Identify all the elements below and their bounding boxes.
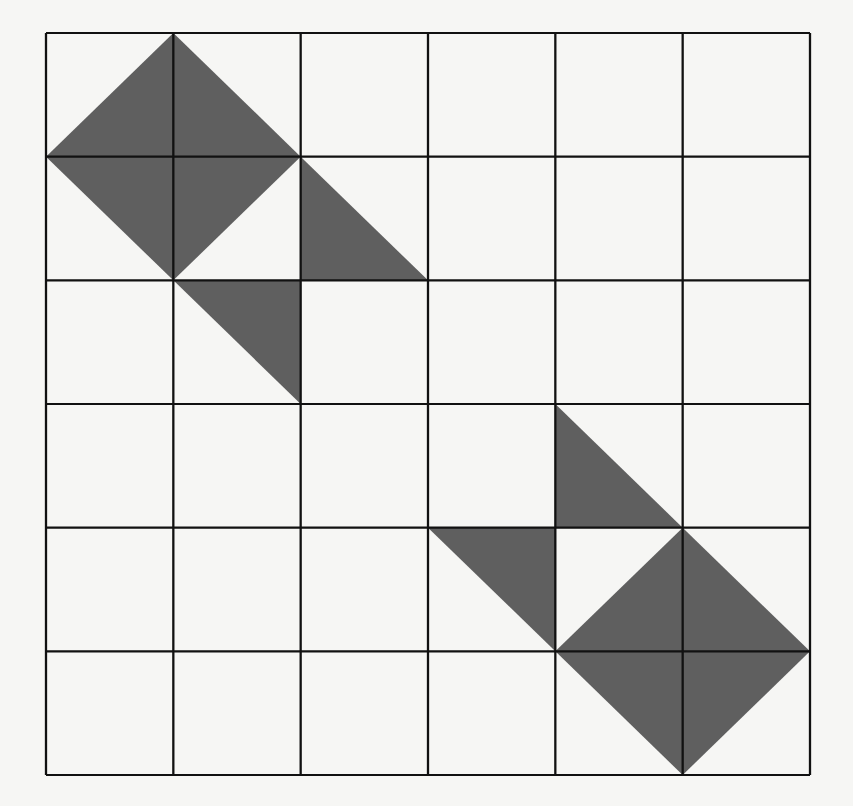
shaded-triangle — [428, 528, 555, 652]
grid-diagram — [46, 33, 810, 775]
shaded-triangle — [46, 33, 173, 157]
shaded-triangle — [555, 404, 682, 528]
shaded-triangle — [683, 528, 810, 652]
shaded-triangle — [683, 651, 810, 775]
grid-svg — [46, 33, 810, 775]
shaded-triangle — [173, 33, 300, 157]
shaded-triangle — [173, 157, 300, 281]
shaded-triangle — [555, 528, 682, 652]
shaded-triangle — [46, 157, 173, 281]
shaded-triangle — [173, 280, 300, 404]
shaded-triangle — [555, 651, 682, 775]
shaded-triangle — [301, 157, 428, 281]
